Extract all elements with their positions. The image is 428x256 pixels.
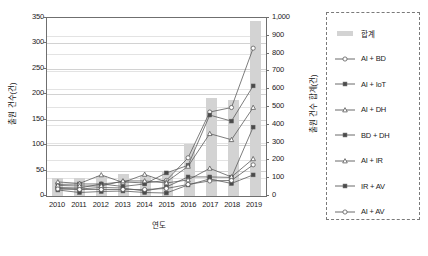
- legend-label: AI + BD: [361, 54, 386, 63]
- y-tick-label-right: 0: [272, 190, 312, 199]
- line-series: [56, 84, 255, 188]
- x-tick-label: 2019: [239, 200, 269, 209]
- legend-label: AI + IoT: [361, 80, 386, 89]
- legend-label: AI + IR: [361, 156, 383, 165]
- tick-mark: [266, 177, 269, 178]
- tick-mark: [43, 17, 46, 18]
- y-tick-label-right: 100: [272, 172, 312, 181]
- chart-panel: 출원 건수(건) 출원 건수 합계(건) 연도 0501001502002503…: [0, 0, 318, 256]
- y-tick-label-right: 400: [272, 119, 312, 128]
- legend-marker-filled-square-icon: [335, 130, 355, 140]
- line-series: [56, 125, 255, 193]
- line-series-layer: [47, 18, 266, 196]
- tick-mark: [266, 124, 269, 125]
- y-tick-label-right: 1,000: [272, 12, 312, 21]
- tick-mark: [266, 142, 269, 143]
- legend-item[interactable]: AI + AV: [335, 206, 384, 218]
- legend-marker-open-circle-icon: [335, 207, 355, 217]
- y-tick-label-right: 500: [272, 101, 312, 110]
- legend-item[interactable]: AI + IoT: [335, 78, 386, 90]
- legend-marker-bar-icon: [335, 28, 355, 38]
- y-tick-label-right: 700: [272, 65, 312, 74]
- tick-mark: [43, 119, 46, 120]
- legend-item[interactable]: AI + BD: [335, 53, 386, 65]
- plot-area: [46, 17, 267, 197]
- legend-item[interactable]: 합계: [335, 27, 375, 39]
- tick-mark: [266, 35, 269, 36]
- y-tick-label-left: 300: [4, 37, 44, 46]
- legend-label: AI + AV: [361, 207, 384, 216]
- tick-mark: [266, 159, 269, 160]
- legend-marker-open-circle-icon: [335, 54, 355, 64]
- tick-mark: [266, 88, 269, 89]
- legend-label: 합계: [361, 28, 375, 39]
- y-tick-label-left: 350: [4, 12, 44, 21]
- tick-mark: [43, 144, 46, 145]
- legend-label: IR + AV: [361, 182, 385, 191]
- tick-mark: [43, 195, 46, 196]
- y-tick-label-left: 200: [4, 88, 44, 97]
- tick-mark: [43, 68, 46, 69]
- tick-mark: [266, 195, 269, 196]
- chart-figure: 출원 건수(건) 출원 건수 합계(건) 연도 0501001502002503…: [0, 0, 428, 256]
- y-tick-label-right: 800: [272, 48, 312, 57]
- y-tick-label-left: 150: [4, 114, 44, 123]
- legend-marker-open-triangle-icon: [335, 105, 355, 115]
- legend-item[interactable]: BD + DH: [335, 129, 389, 141]
- chart-legend: 합계AI + BDAI + IoTAI + DHBD + DHAI + IRIR…: [326, 12, 420, 220]
- tick-mark: [43, 170, 46, 171]
- y-tick-label-left: 0: [4, 190, 44, 199]
- tick-mark: [266, 17, 269, 18]
- tick-mark: [43, 42, 46, 43]
- legend-marker-filled-square-icon: [335, 181, 355, 191]
- y-tick-label-right: 300: [272, 137, 312, 146]
- legend-item[interactable]: AI + DH: [335, 104, 386, 116]
- y-tick-label-left: 50: [4, 165, 44, 174]
- legend-marker-open-triangle-icon: [335, 156, 355, 166]
- tick-mark: [266, 106, 269, 107]
- y-tick-label-left: 100: [4, 139, 44, 148]
- legend-item[interactable]: AI + IR: [335, 155, 383, 167]
- line-series: [56, 105, 256, 185]
- line-series: [56, 46, 255, 190]
- y-tick-label-right: 200: [272, 154, 312, 163]
- legend-marker-filled-square-icon: [335, 79, 355, 89]
- y-axis-title-left: 출원 건수(건): [6, 69, 17, 139]
- x-axis-title: 연도: [0, 219, 318, 230]
- line-series: [56, 156, 256, 187]
- y-tick-label-right: 900: [272, 30, 312, 39]
- legend-label: BD + DH: [361, 131, 389, 140]
- y-tick-label-right: 600: [272, 83, 312, 92]
- y-tick-label-left: 250: [4, 63, 44, 72]
- tick-mark: [43, 93, 46, 94]
- legend-label: AI + DH: [361, 105, 386, 114]
- tick-mark: [266, 53, 269, 54]
- legend-item[interactable]: IR + AV: [335, 180, 385, 192]
- tick-mark: [266, 70, 269, 71]
